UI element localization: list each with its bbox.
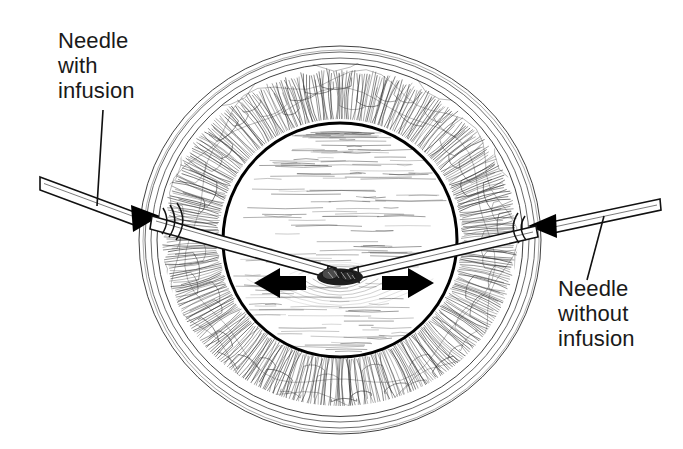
left-label-line-2: with (57, 53, 98, 78)
right-label-line-1: Needle (558, 276, 628, 301)
left-label-line-3: infusion (58, 78, 135, 103)
central-lesion (317, 269, 363, 286)
figure-root: Needle with infusion Needle without infu… (0, 0, 683, 449)
eye-cross-section-diagram: Needle with infusion Needle without infu… (0, 0, 683, 449)
left-label-line-1: Needle (58, 28, 128, 53)
needle-without-infusion-label: Needle without infusion (557, 276, 635, 351)
vitreous-body (224, 124, 456, 356)
right-label-line-3: infusion (558, 326, 635, 351)
right-label-line-2: without (557, 301, 628, 326)
